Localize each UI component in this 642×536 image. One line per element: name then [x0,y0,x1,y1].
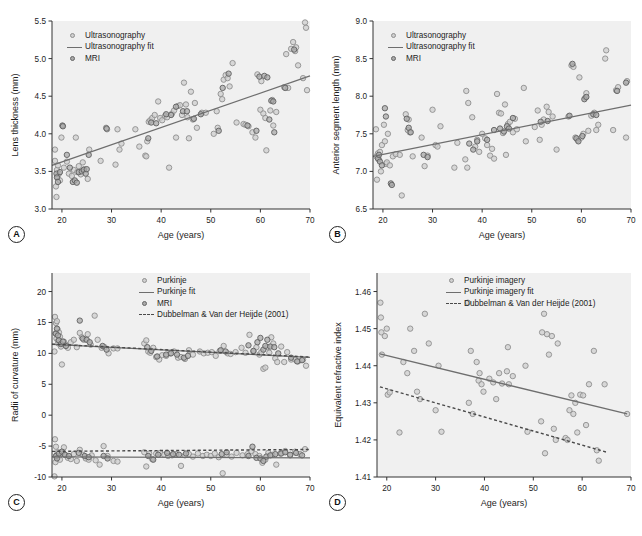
svg-text:70: 70 [305,216,315,225]
svg-text:50: 50 [206,216,216,225]
svg-text:7.0: 7.0 [356,167,368,176]
svg-text:6.5: 6.5 [356,205,368,214]
panel-a-svg: 3.03.54.04.55.05.5203040506070 [0,0,321,268]
legend-label: Ultrasonography fit [83,41,154,52]
panel-d: 1.411.421.431.441.451.46203040506070 Equ… [321,268,642,536]
legend-item: Ultrasonography [387,30,475,41]
svg-text:60: 60 [256,216,266,225]
legend-dark-circle-icon [66,53,83,64]
legend-label: Ultrasonography [404,30,466,41]
svg-text:50: 50 [529,484,539,493]
svg-text:5.0: 5.0 [35,55,47,64]
svg-text:1.42: 1.42 [355,436,371,445]
legend-label: MRI [83,53,100,64]
panel-c: -10-505101520203040506070 Radii of curva… [0,268,321,536]
legend-label: Purkinje fit [155,286,195,297]
panel-b-svg: 6.57.07.58.08.59.0203040506070 [321,0,642,268]
legend-label: Dubbelman & Van der Heijde (2001) [155,309,288,320]
panel-b: 6.57.07.58.08.59.0203040506070 Anterior … [321,0,642,268]
legend-dark-circle-icon [387,53,404,64]
legend-dark-circle-icon [138,298,155,309]
legend-item: Dubbelman & Van der Heijde (2001) [445,298,595,309]
svg-text:10: 10 [37,349,47,358]
svg-text:5.5: 5.5 [35,17,47,26]
legend-item: Purkinje fit [138,286,288,297]
panel-d-tag: D [329,494,346,511]
svg-text:4.5: 4.5 [35,92,47,101]
panel-d-y-axis-title: Equivalent refractive index [333,273,343,477]
legend-item: Ultrasonography [66,30,154,41]
legend-light-circle-icon [445,275,462,286]
svg-text:3.0: 3.0 [35,205,47,214]
panel-a-legend: UltrasonographyUltrasonography fitMRI [66,30,154,64]
svg-text:30: 30 [431,484,441,493]
svg-text:9.0: 9.0 [356,17,368,26]
panel-a-plot-area: 3.03.54.04.55.05.5203040506070 [0,0,321,268]
panel-a: 3.03.54.04.55.05.5203040506070 Lens thic… [0,0,321,268]
svg-text:20: 20 [57,484,67,493]
legend-label: Purkinje imagery fit [462,286,534,297]
svg-text:70: 70 [305,484,315,493]
legend-label: Ultrasonography [83,30,145,41]
legend-solid-line-icon [387,41,404,52]
svg-text:50: 50 [206,484,216,493]
legend-item: Ultrasonography fit [66,41,154,52]
svg-text:70: 70 [626,484,636,493]
panel-d-x-axis-title: Age (years) [377,498,631,508]
panel-b-tag: B [329,226,346,243]
legend-dashed-line-icon [138,309,155,320]
svg-text:15: 15 [37,318,47,327]
legend-light-circle-icon [66,30,83,41]
svg-text:60: 60 [578,484,588,493]
panel-b-plot-area: 6.57.07.58.08.59.0203040506070 [321,0,642,268]
legend-solid-line-icon [66,41,83,52]
legend-item: MRI [387,53,475,64]
svg-text:20: 20 [378,216,388,225]
svg-text:-5: -5 [39,442,47,451]
svg-text:70: 70 [626,216,636,225]
legend-light-circle-icon [138,275,155,286]
panel-d-legend: Purkinje imageryPurkinje imagery fitDubb… [445,275,595,309]
legend-item: MRI [66,53,154,64]
legend-item: Purkinje [138,275,288,286]
legend-item: Ultrasonography fit [387,41,475,52]
svg-text:8.0: 8.0 [356,92,368,101]
svg-text:20: 20 [382,484,392,493]
panel-c-tag: C [8,494,25,511]
legend-item: Dubbelman & Van der Heijde (2001) [138,309,288,320]
svg-text:20: 20 [57,216,67,225]
svg-text:60: 60 [577,216,587,225]
panel-c-x-axis-title: Age (years) [52,498,310,508]
svg-text:1.45: 1.45 [355,325,371,334]
legend-dashed-line-icon [445,298,462,309]
panel-b-x-axis-title: Age (years) [373,230,631,240]
legend-item: MRI [138,298,288,309]
svg-text:30: 30 [107,484,117,493]
svg-text:30: 30 [428,216,438,225]
svg-text:3.5: 3.5 [35,167,47,176]
svg-text:60: 60 [256,484,266,493]
svg-text:7.5: 7.5 [356,130,368,139]
panel-a-y-axis-title: Lens thickness (mm) [10,21,20,209]
panel-b-y-axis-title: Anterior segment length (mm) [331,21,341,209]
legend-solid-line-icon [445,286,462,297]
svg-text:1.46: 1.46 [355,288,371,297]
svg-text:20: 20 [37,288,47,297]
svg-text:30: 30 [107,216,117,225]
svg-text:1.44: 1.44 [355,362,371,371]
figure-root: 3.03.54.04.55.05.5203040506070 Lens thic… [0,0,642,536]
svg-text:5: 5 [41,380,46,389]
svg-text:0: 0 [41,411,46,420]
svg-text:40: 40 [157,484,167,493]
svg-text:-10: -10 [34,473,46,482]
svg-text:40: 40 [478,216,488,225]
svg-text:40: 40 [480,484,490,493]
legend-label: Ultrasonography fit [404,41,475,52]
legend-label: Purkinje imagery [462,275,525,286]
panel-c-y-axis-title: Radii of curvature (mm) [10,273,20,477]
legend-solid-line-icon [138,286,155,297]
svg-text:50: 50 [527,216,537,225]
svg-text:4.0: 4.0 [35,130,47,139]
legend-label: Dubbelman & Van der Heijde (2001) [462,298,595,309]
legend-label: Purkinje [155,275,187,286]
